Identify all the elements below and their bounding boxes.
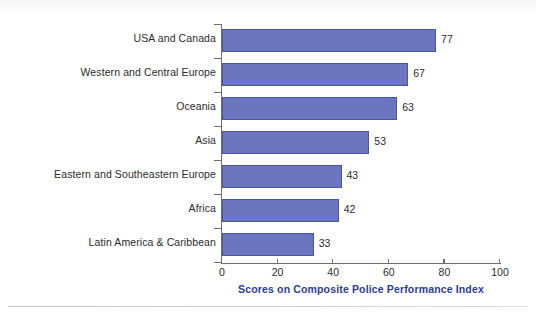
bar-row: USA and Canada 77 xyxy=(0,24,536,58)
plot-area: USA and Canada 77 Western and Central Eu… xyxy=(0,0,536,319)
bar-row: Western and Central Europe 67 xyxy=(0,58,536,92)
category-label: Latin America & Caribbean xyxy=(89,236,216,248)
chart-figure: USA and Canada 77 Western and Central Eu… xyxy=(0,0,536,319)
bar-row: Oceania 63 xyxy=(0,92,536,126)
bar-row: Eastern and Southeastern Europe 43 xyxy=(0,160,536,194)
bar-value-label: 67 xyxy=(413,67,425,79)
bar xyxy=(222,29,436,52)
bar-value-label: 77 xyxy=(441,33,453,45)
bar xyxy=(222,97,397,120)
x-axis-tick-label: 100 xyxy=(480,266,520,278)
x-axis-title: Scores on Composite Police Performance I… xyxy=(221,283,501,295)
category-label: Eastern and Southeastern Europe xyxy=(54,168,216,180)
x-axis-tick-label: 0 xyxy=(202,266,242,278)
x-axis-tick-label: 40 xyxy=(313,266,353,278)
category-label: USA and Canada xyxy=(133,32,216,44)
scan-line-artifact xyxy=(8,306,528,307)
bar-value-label: 33 xyxy=(319,237,331,249)
category-label: Western and Central Europe xyxy=(81,66,216,78)
bar xyxy=(222,233,314,256)
bar xyxy=(222,63,408,86)
x-axis-tick-label: 60 xyxy=(369,266,409,278)
x-axis-tick-label: 80 xyxy=(424,266,464,278)
x-axis-line xyxy=(221,263,501,264)
bar-value-label: 42 xyxy=(344,203,356,215)
bar-value-label: 63 xyxy=(402,101,414,113)
bar xyxy=(222,131,369,154)
category-label: Oceania xyxy=(176,100,216,112)
bar-row: Asia 53 xyxy=(0,126,536,160)
bar-value-label: 53 xyxy=(374,135,386,147)
category-label: Asia xyxy=(195,134,216,146)
y-axis-tick xyxy=(214,262,221,263)
bar-value-label: 43 xyxy=(347,169,359,181)
category-label: Africa xyxy=(189,202,216,214)
bar xyxy=(222,199,339,222)
bar-row: Latin America & Caribbean 33 xyxy=(0,228,536,262)
bar-row: Africa 42 xyxy=(0,194,536,228)
bar xyxy=(222,165,342,188)
x-axis-tick-label: 20 xyxy=(258,266,298,278)
